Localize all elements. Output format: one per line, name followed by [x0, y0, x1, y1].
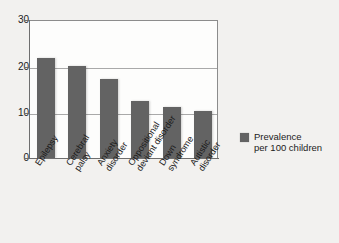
- legend-swatch-icon: [240, 133, 249, 142]
- y-tick-mark-20: [24, 67, 29, 68]
- y-tick-mark-30: [24, 20, 29, 21]
- legend-label: Prevalence per 100 children: [254, 131, 322, 153]
- legend: Prevalence per 100 children: [240, 131, 322, 153]
- y-tick-mark-0: [24, 158, 29, 159]
- y-axis-line: [29, 20, 30, 159]
- bar-chart-figure: 30 20 10 0 Epilepsy Cerebral palsy Anxie…: [0, 0, 339, 243]
- y-tick-mark-10: [24, 113, 29, 114]
